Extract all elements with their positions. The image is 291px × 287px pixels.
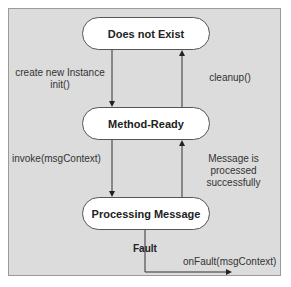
node-method-ready: Method-Ready	[82, 107, 210, 140]
label-line: processed	[196, 165, 271, 177]
label-cleanup: cleanup()	[200, 72, 260, 84]
label-fault: Fault	[133, 243, 163, 255]
node-label: Processing Message	[92, 208, 201, 220]
node-label: Method-Ready	[108, 118, 184, 130]
label-invoke: invoke(msgContext)	[12, 153, 107, 165]
label-line: init()	[10, 79, 110, 91]
label-processed: Message is processed successfully	[196, 153, 271, 189]
label-line: create new Instance	[10, 67, 110, 79]
node-processing-message: Processing Message	[82, 197, 210, 230]
label-create-instance: create new Instance init()	[10, 67, 110, 91]
label-onfault: onFault(msgContext)	[183, 256, 283, 268]
node-does-not-exist: Does not Exist	[82, 17, 210, 50]
label-line: successfully	[196, 177, 271, 189]
node-label: Does not Exist	[108, 28, 184, 40]
label-line: Message is	[196, 153, 271, 165]
